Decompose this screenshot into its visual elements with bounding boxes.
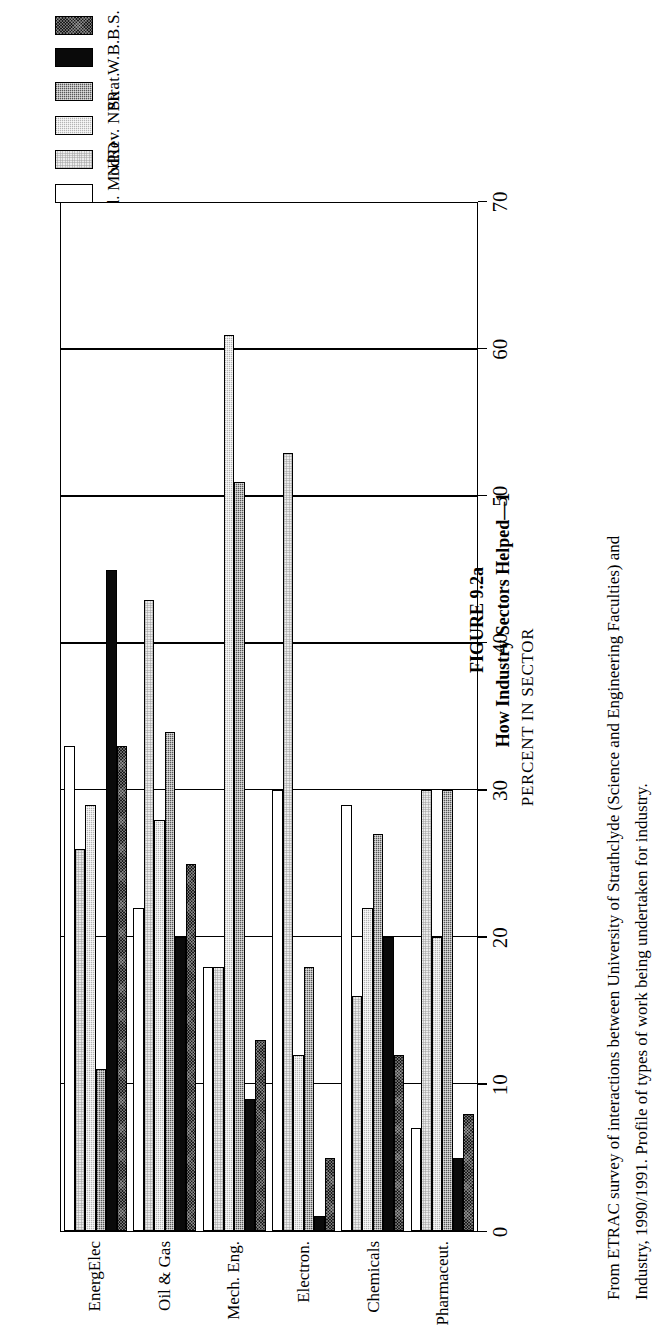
bar [234, 482, 245, 1231]
category-label: Electron. [269, 1234, 339, 1310]
figure-number: FIGURE 9.2a [464, 410, 490, 830]
legend-item: Rev. NPR [55, 108, 124, 142]
category-label: Oil & Gas [130, 1234, 200, 1310]
bar-group [200, 203, 269, 1231]
bar [175, 937, 186, 1231]
figure-title-block: FIGURE 9.2a How Industry Sectors Helped—… [464, 410, 516, 830]
bar [325, 1158, 336, 1231]
bar [304, 967, 315, 1231]
bar [144, 600, 155, 1231]
tick-label: 70 [488, 192, 513, 213]
tick-label: 0 [488, 1227, 513, 1238]
bar [245, 1099, 256, 1231]
category-label: Chemicals [339, 1234, 409, 1310]
bar [224, 335, 235, 1231]
bar [341, 805, 352, 1231]
bar [64, 746, 75, 1231]
bar [453, 1158, 464, 1231]
bar [96, 1069, 107, 1231]
bar [293, 1055, 304, 1231]
bar [411, 1128, 422, 1231]
figure-title: How Industry Sectors Helped—1 [490, 410, 516, 830]
bar [352, 996, 363, 1231]
bar-group [130, 203, 199, 1231]
bar [117, 746, 128, 1231]
legend-item: Strat. [55, 74, 124, 108]
category-label: EnergElec [60, 1234, 130, 1310]
caption-line-2: Industry, 1990/1991. Profile of types of… [628, 30, 655, 1300]
tick-mark [478, 201, 487, 202]
plot-area [60, 202, 478, 1232]
bar [203, 967, 214, 1231]
legend-label: Strat. [104, 72, 124, 110]
bar [154, 820, 165, 1231]
legend-item: W.B. [55, 40, 124, 74]
medium-checker-swatch [55, 82, 93, 101]
pale-checker-swatch [55, 150, 93, 169]
bar [75, 849, 86, 1231]
figure-caption: From ETRAC survey of interactions betwee… [600, 30, 655, 1300]
bar [106, 570, 117, 1231]
bar [283, 453, 294, 1231]
chart-legend: B.S.W.B.Strat.Rev. NPRNPDProd. Mod. [55, 10, 475, 165]
bar [362, 908, 373, 1231]
bar [165, 732, 176, 1231]
bar [463, 1114, 474, 1231]
tick-mark [478, 1231, 487, 1232]
dark-crosshatch-swatch [55, 16, 93, 35]
white-swatch [55, 184, 93, 203]
tick-mark [478, 936, 487, 937]
bar-group [61, 203, 130, 1231]
bar [373, 835, 384, 1232]
legend-item: B.S. [55, 10, 124, 40]
bar [85, 805, 96, 1231]
bar [272, 790, 283, 1231]
bar [394, 1055, 405, 1231]
tick-mark [478, 1083, 487, 1084]
category-label: Mech. Eng. [199, 1234, 269, 1310]
tick-label: 20 [488, 927, 513, 948]
legend-label: W.B. [104, 40, 124, 75]
bar-groups [61, 203, 477, 1231]
axis-title: PERCENT IN SECTOR [518, 202, 538, 1232]
category-axis-labels: EnergElecOil & GasMech. Eng.Electron.Che… [60, 1234, 478, 1310]
bar [383, 937, 394, 1231]
bar [432, 937, 443, 1231]
legend-label: B.S. [104, 10, 124, 40]
solid-black-swatch [55, 48, 93, 67]
bar [213, 967, 224, 1231]
tick-label: 60 [488, 339, 513, 360]
category-label: Pharmaceut. [408, 1234, 478, 1310]
bar [186, 864, 197, 1231]
light-checker-swatch [55, 116, 93, 135]
bar [255, 1040, 266, 1231]
bar [133, 908, 144, 1231]
bar [314, 1216, 325, 1231]
bar [421, 790, 432, 1231]
tick-label: 10 [488, 1074, 513, 1095]
bar-group [338, 203, 407, 1231]
caption-line-1: From ETRAC survey of interactions betwee… [600, 30, 628, 1300]
bar [442, 790, 453, 1231]
bar-group [269, 203, 338, 1231]
tick-mark [478, 348, 487, 349]
